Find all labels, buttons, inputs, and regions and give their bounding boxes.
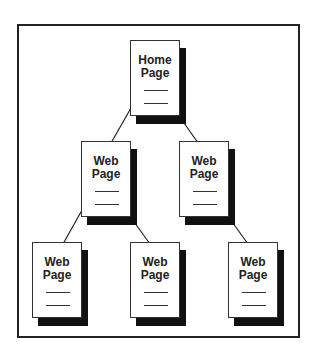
node-web-page-l2-c: WebPage [228,242,278,318]
text-line [193,204,217,205]
node-label: HomePage [131,54,179,80]
page-sheet: HomePage [130,40,180,116]
text-line [193,191,217,192]
text-line [144,103,168,104]
page-sheet: WebPage [179,141,229,217]
page-sheet: WebPage [32,242,82,318]
node-home-page: HomePage [130,40,180,116]
text-line [46,305,70,306]
text-line [144,305,168,306]
node-label: WebPage [33,256,81,282]
node-web-page-l2-a: WebPage [32,242,82,318]
node-web-page-l2-b: WebPage [130,242,180,318]
text-line [46,292,70,293]
node-label: WebPage [82,155,130,181]
node-web-page-l1-b: WebPage [179,141,229,217]
text-line [144,90,168,91]
text-line [95,204,119,205]
node-label: WebPage [229,256,277,282]
text-line [95,191,119,192]
page-sheet: WebPage [81,141,131,217]
node-label: WebPage [131,256,179,282]
page-sheet: WebPage [130,242,180,318]
text-line [144,292,168,293]
node-label: WebPage [180,155,228,181]
page-sheet: WebPage [228,242,278,318]
node-web-page-l1-a: WebPage [81,141,131,217]
text-line [242,292,266,293]
text-line [242,305,266,306]
